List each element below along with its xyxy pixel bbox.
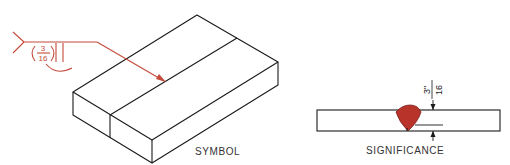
size-denominator: 16	[39, 54, 48, 63]
significance-caption: SIGNIFICANCE	[366, 145, 444, 156]
arrow-line	[97, 42, 164, 81]
plate-front-face	[73, 92, 152, 163]
isometric-plates	[73, 15, 278, 163]
weld-diagram: 3 16 3" 16	[0, 0, 510, 165]
dimension-denominator: 16	[434, 85, 444, 95]
symbol-tail-lower	[13, 42, 24, 53]
paren-right	[51, 46, 54, 61]
arrow-head-icon	[156, 74, 166, 82]
dimension-numerator: 3"	[422, 86, 432, 94]
weld-bead	[396, 105, 421, 131]
joint-seam-line	[110, 38, 237, 115]
size-numerator: 3	[41, 44, 46, 53]
symbol-tail-upper	[13, 32, 24, 42]
dimension-arrow-down-icon	[431, 104, 436, 110]
symbol-caption: SYMBOL	[195, 146, 240, 157]
contour-arc	[46, 64, 72, 71]
welding-symbol	[13, 32, 166, 82]
paren-left	[32, 46, 35, 61]
plate-top-face	[73, 15, 278, 140]
dimension-arrow-up-icon	[431, 131, 436, 137]
cross-section	[317, 80, 500, 141]
